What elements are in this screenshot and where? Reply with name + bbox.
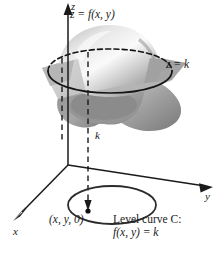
y-axis-label: y [205,190,210,203]
level-curve-caption: Level curve C: f(x, y) = k [113,213,181,239]
height-k-label: k [95,129,100,142]
level-curve-figure: z = f(x, y) z = k z y x k (x, y, 0) Leve… [0,0,223,258]
base-point-marker [85,208,90,213]
z-axis-label: z [71,1,75,13]
plane-equation-label: z = k [166,58,189,71]
x-axis-label: x [13,225,18,238]
level-curve-caption-line2: f(x, y) = k [113,226,181,239]
figure-canvas [0,0,223,258]
base-point-label: (x, y, 0) [49,213,83,226]
surface-equation-label: z = f(x, y) [70,8,115,21]
level-curve-caption-line1: Level curve C: [113,213,181,226]
